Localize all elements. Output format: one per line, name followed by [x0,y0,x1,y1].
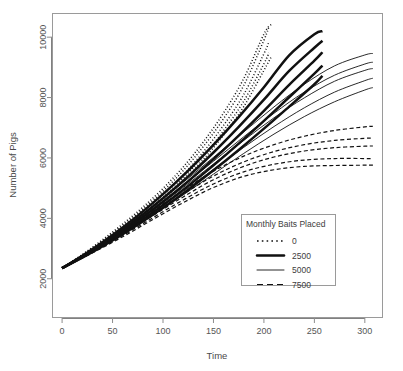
x-tick-label: 200 [256,326,271,336]
y-tick-label: 4000 [38,208,48,228]
series-curve-0 [62,24,271,268]
x-tick-label: 250 [307,326,322,336]
pig-population-line-chart: 050100150200250300 200040006000800010000… [0,0,403,371]
series-curve-0 [62,42,269,268]
legend-label-5000: 5000 [292,265,311,275]
chart-legend: Monthly Baits Placed 0250050007500 [242,215,336,290]
legend-label-2500: 2500 [292,251,311,261]
y-axis: 200040006000800010000 [38,25,52,289]
x-axis-title: Time [207,350,228,361]
series-curve-0 [62,53,269,268]
x-tick-label: 300 [357,326,372,336]
x-tick-label: 100 [155,326,170,336]
x-tick-label: 0 [60,326,65,336]
legend-label-0: 0 [292,236,297,246]
x-tick-label: 50 [108,326,118,336]
legend-label-7500: 7500 [292,280,311,290]
legend-title: Monthly Baits Placed [246,219,326,229]
x-tick-label: 150 [206,326,221,336]
y-axis-title: Number of Pigs [7,132,18,198]
y-tick-label: 2000 [38,269,48,289]
x-axis: 050100150200250300 [60,318,373,336]
y-tick-label: 8000 [38,88,48,108]
chart-figure: 050100150200250300 200040006000800010000… [0,0,403,371]
y-tick-label: 6000 [38,148,48,168]
y-tick-label: 10000 [38,25,48,50]
series-curve-0 [62,57,271,268]
series-curve-0 [62,27,269,269]
